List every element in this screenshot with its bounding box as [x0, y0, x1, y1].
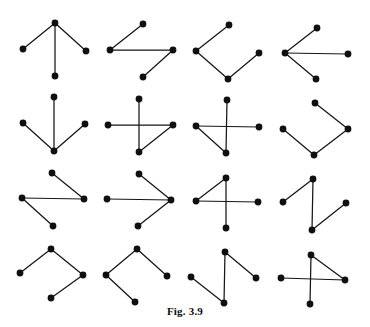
graph-edge	[311, 255, 345, 280]
graph-edge	[196, 126, 226, 153]
graph-edge	[110, 24, 143, 50]
graph-vertex	[313, 76, 320, 83]
graph-vertex	[134, 246, 141, 253]
graph-vertex	[105, 122, 112, 129]
graph-edge	[285, 28, 317, 53]
graph-vertex	[280, 126, 287, 133]
graph-vertex	[19, 195, 26, 202]
graph-vertex	[80, 272, 87, 279]
graph-edge	[312, 203, 346, 230]
graph-vertex	[136, 96, 143, 103]
graph-vertex	[310, 176, 317, 183]
graph-vertex	[193, 198, 200, 205]
graph-edge	[196, 25, 229, 51]
graph-vertex	[223, 225, 230, 232]
graph-vertex	[226, 22, 233, 29]
graph-vertex	[343, 200, 350, 207]
graph-vertex	[312, 100, 319, 107]
graph-vertex	[225, 76, 232, 83]
graph-edge	[106, 249, 137, 275]
graph-vertex	[136, 149, 143, 156]
graph-vertex	[256, 50, 263, 57]
graph-edge	[139, 125, 173, 152]
graph-3-2	[104, 171, 175, 230]
graph-vertex	[342, 277, 349, 284]
graph-edge	[106, 275, 135, 302]
graph-vertex	[224, 97, 231, 104]
graph-vertex	[170, 122, 177, 129]
graph-vertex	[193, 48, 200, 55]
graph-3-3	[193, 175, 262, 232]
graph-edge	[196, 51, 228, 79]
graph-edge	[22, 198, 84, 199]
graph-edge	[55, 23, 86, 51]
graph-edge	[143, 50, 173, 77]
graph-edge	[224, 252, 225, 303]
graph-vertex	[223, 175, 230, 182]
graph-vertex	[193, 123, 200, 130]
graph-edge	[139, 174, 171, 200]
graph-edge	[196, 126, 259, 127]
graph-edge	[315, 103, 348, 129]
graph-vertex	[309, 227, 316, 234]
graph-vertex	[311, 152, 318, 159]
graph-vertex	[83, 48, 90, 55]
graph-edge	[196, 201, 258, 202]
graph-vertex	[164, 273, 171, 280]
graph-3-4	[280, 176, 350, 234]
graph-edge	[52, 173, 84, 199]
graph-2-1	[20, 94, 89, 155]
graph-vertex	[48, 246, 55, 253]
graph-edge	[225, 252, 256, 278]
graph-vertex	[255, 199, 262, 206]
graph-vertex	[136, 171, 143, 178]
graph-vertex	[256, 124, 263, 131]
graph-edge	[51, 249, 83, 275]
graph-edge	[138, 200, 171, 226]
graph-4-2	[103, 246, 171, 306]
graph-2-4	[280, 100, 352, 159]
graph-vertex	[20, 46, 27, 53]
graph-vertex	[170, 47, 177, 54]
graph-edge	[54, 124, 85, 151]
graph-vertex	[104, 196, 111, 203]
figure-caption: Fig. 3.9	[0, 305, 370, 317]
graph-vertex	[280, 199, 287, 206]
graph-1-2	[107, 21, 177, 81]
graph-edge	[283, 179, 313, 202]
graph-1-3	[193, 22, 263, 83]
graph-vertex	[253, 275, 260, 282]
graph-1-1	[20, 20, 90, 80]
graph-edge	[20, 249, 51, 273]
graph-edge	[312, 179, 313, 230]
graph-edge	[285, 53, 348, 54]
graph-edge	[228, 53, 259, 79]
graph-4-3	[188, 249, 260, 307]
graph-vertex	[308, 252, 315, 259]
graph-2-3	[193, 97, 263, 157]
graph-vertex	[135, 223, 142, 230]
graph-edge	[22, 198, 53, 226]
graph-vertex	[282, 50, 289, 57]
graph-edge	[23, 23, 55, 49]
graph-vertex	[140, 74, 147, 81]
graph-vertex	[222, 249, 229, 256]
graph-edge	[283, 129, 314, 155]
graph-edge	[51, 275, 83, 298]
graph-vertex	[81, 196, 88, 203]
graph-vertex	[52, 73, 59, 80]
graph-edge	[137, 249, 167, 276]
graph-grid	[0, 0, 370, 327]
graph-4-1	[17, 246, 87, 302]
graph-vertex	[314, 25, 321, 32]
graph-vertex	[48, 295, 55, 302]
graph-2-2	[105, 96, 177, 156]
graph-vertex	[345, 126, 352, 133]
graph-edge	[107, 199, 171, 200]
graph-vertex	[20, 120, 27, 127]
graph-vertex	[51, 148, 58, 155]
graph-vertex	[223, 150, 230, 157]
graph-vertex	[188, 274, 195, 281]
graph-edge	[281, 278, 345, 280]
graph-vertex	[278, 275, 285, 282]
